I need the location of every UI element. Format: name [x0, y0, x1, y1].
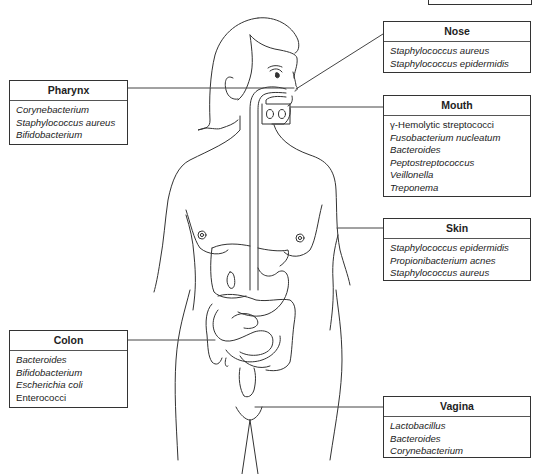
organism: Lactobacillus: [390, 420, 525, 433]
label-box-colon: Colon Bacteroides Bifidobacterium Escher…: [9, 330, 128, 408]
organism: Staphylococcus aureus: [390, 267, 525, 280]
label-box-skin: Skin Staphylococcus epidermidis Propioni…: [383, 218, 531, 281]
organism-list: Lactobacillus Bacteroides Corynebacteriu…: [384, 417, 530, 461]
organism: Bacteroides: [390, 433, 525, 446]
organism-list: Staphylococcus epidermidis Propionibacte…: [384, 239, 530, 283]
organism: Escherichia coli: [16, 379, 122, 392]
box-title: Pharynx: [10, 81, 127, 101]
organism: Treponema: [390, 182, 525, 195]
organism: Bifidobacterium: [16, 129, 122, 142]
organism-list: Corynebacterium Staphylococcus aureus Bi…: [10, 101, 127, 145]
torso-outline: [154, 116, 350, 474]
label-box-pharynx: Pharynx Corynebacterium Staphylococcus a…: [9, 80, 128, 145]
organism: Bacteroides: [16, 354, 122, 367]
organism: Veillonella: [390, 169, 525, 182]
box-title: Nose: [384, 22, 530, 42]
organism: Staphylococcus aureus: [390, 45, 525, 58]
digestive-tract: [206, 87, 295, 397]
partial-box-top: [428, 0, 532, 5]
organism: Corynebacterium: [390, 445, 525, 458]
box-title: Skin: [384, 219, 530, 239]
box-title: Vagina: [384, 397, 530, 417]
organism: Peptostreptococcus: [390, 157, 525, 170]
organism: Bifidobacterium: [16, 367, 122, 380]
label-box-vagina: Vagina Lactobacillus Bacteroides Coryneb…: [383, 396, 531, 458]
organism: Staphylococcus epidermidis: [390, 58, 525, 71]
organism-list: Bacteroides Bifidobacterium Escherichia …: [10, 351, 127, 407]
leader-lines: [128, 34, 383, 407]
organism: Staphylococcus aureus: [16, 117, 122, 130]
head-outline: [198, 18, 299, 130]
label-box-mouth: Mouth γ-Hemolytic streptococci Fusobacte…: [383, 95, 531, 197]
label-box-nose: Nose Staphylococcus aureus Staphylococcu…: [383, 21, 531, 73]
box-title: Colon: [10, 331, 127, 351]
organism: Staphylococcus epidermidis: [390, 242, 525, 255]
organism: Bacteroides: [390, 144, 525, 157]
box-title: Mouth: [384, 96, 530, 116]
organism-list: γ-Hemolytic streptococci Fusobacterium n…: [384, 116, 530, 197]
organism: γ-Hemolytic streptococci: [390, 119, 525, 132]
organism: Fusobacterium nucleatum: [390, 132, 525, 145]
organism: Enterococci: [16, 392, 122, 405]
organism: Propionibacterium acnes: [390, 255, 525, 268]
organism-list: Staphylococcus aureus Staphylococcus epi…: [384, 42, 530, 73]
organism: Corynebacterium: [16, 104, 122, 117]
